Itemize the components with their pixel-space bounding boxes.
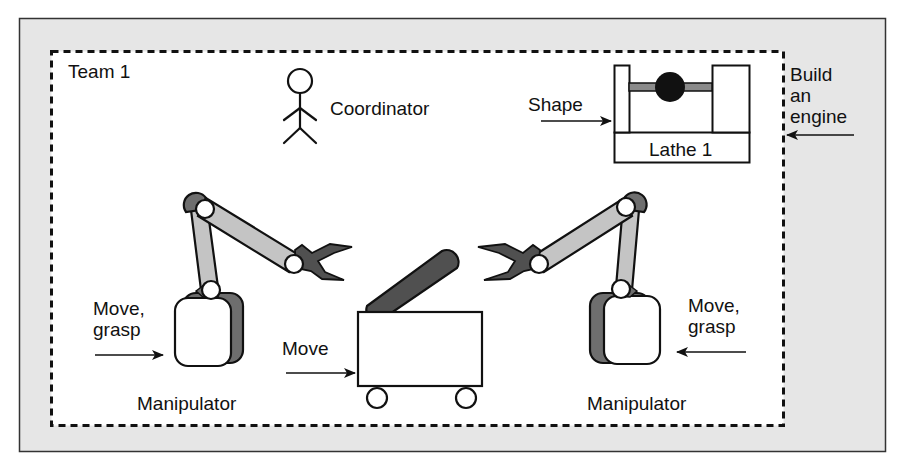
build-engine-line-2: an	[790, 85, 847, 106]
diagram-canvas	[0, 0, 897, 470]
lathe-label: Lathe 1	[649, 139, 712, 160]
right-input-line-1: Move,	[688, 295, 740, 316]
build-engine-input-label: Build an engine	[790, 64, 847, 127]
team-diagram: Team 1 Coordinator Shape Lathe 1 Build a…	[0, 0, 897, 470]
right-manipulator-input-label: Move, grasp	[688, 295, 740, 337]
team-label: Team 1	[68, 61, 130, 82]
right-input-line-2: grasp	[688, 316, 740, 337]
shape-input-label: Shape	[528, 94, 583, 115]
left-input-line-2: grasp	[93, 319, 145, 340]
coordinator-label: Coordinator	[330, 98, 429, 119]
build-engine-line-3: engine	[790, 106, 847, 127]
cart-move-input-label: Move	[282, 338, 328, 359]
left-manipulator-label: Manipulator	[137, 393, 236, 414]
left-manipulator-input-label: Move, grasp	[93, 298, 145, 340]
left-input-line-1: Move,	[93, 298, 145, 319]
build-engine-line-1: Build	[790, 64, 847, 85]
right-manipulator-label: Manipulator	[587, 393, 686, 414]
